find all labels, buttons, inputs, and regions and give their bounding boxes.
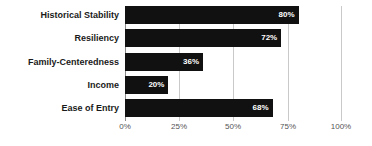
tick-label: 75% — [280, 121, 296, 133]
horizontal-bar-chart: Historical Stability Resiliency Family-C… — [0, 0, 372, 146]
category-label: Historical Stability — [0, 6, 119, 24]
bar-row: 68% — [125, 99, 342, 117]
bar-value-label: 68% — [253, 99, 269, 117]
category-label: Resiliency — [0, 29, 119, 47]
bar-value-label: 80% — [279, 6, 295, 24]
value-axis-tick-labels: 0% 25% 50% 75% 100% — [125, 121, 342, 135]
bar: 80% — [125, 6, 299, 24]
bar-row: 20% — [125, 76, 342, 94]
bar: 36% — [125, 53, 203, 71]
tick-label: 25% — [171, 121, 187, 133]
bar: 72% — [125, 29, 281, 47]
bar: 68% — [125, 99, 273, 117]
bar-value-label: 20% — [148, 76, 164, 94]
bar-value-label: 36% — [183, 53, 199, 71]
bar-row: 72% — [125, 29, 342, 47]
category-axis-labels: Historical Stability Resiliency Family-C… — [0, 6, 119, 117]
category-label: Income — [0, 76, 119, 94]
tick-label: 100% — [331, 121, 351, 133]
bar-row: 36% — [125, 53, 342, 71]
bar-series: 80% 72% 36% 20% 68% — [125, 6, 342, 117]
bar: 20% — [125, 76, 168, 94]
category-label: Ease of Entry — [0, 99, 119, 117]
tick-label: 0% — [119, 121, 131, 133]
bar-value-label: 72% — [261, 29, 277, 47]
bar-row: 80% — [125, 6, 342, 24]
tick-label: 50% — [225, 121, 241, 133]
category-label: Family-Centeredness — [0, 53, 119, 71]
